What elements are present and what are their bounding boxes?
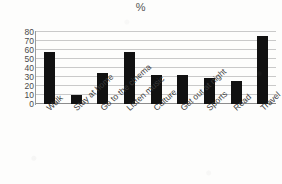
y-axis-tick-labels: 01020304050607080: [12, 32, 34, 104]
gridline-60: [36, 49, 276, 50]
y-tick-label-40: 40: [25, 64, 34, 73]
chart-title: %: [0, 1, 282, 13]
y-tick-label-80: 80: [25, 28, 34, 37]
y-tick-label-70: 70: [25, 37, 34, 46]
gridline-50: [36, 58, 276, 59]
y-tick-label-0: 0: [29, 100, 34, 109]
bar: [257, 36, 268, 104]
y-tick-label-60: 60: [25, 46, 34, 55]
y-tick-label-20: 20: [25, 82, 34, 91]
gridline-80: [36, 31, 276, 32]
y-tick-label-30: 30: [25, 73, 34, 82]
x-axis-category-labels: WalkStay at homeGo to the cinemaListen m…: [36, 106, 282, 176]
y-tick-label-50: 50: [25, 55, 34, 64]
plot-area: [36, 32, 276, 104]
y-tick-label-10: 10: [25, 91, 34, 100]
gridline-70: [36, 40, 276, 41]
bar-chart-figure: % 01020304050607080 WalkStay at homeGo t…: [0, 0, 282, 184]
gridline-40: [36, 67, 276, 68]
